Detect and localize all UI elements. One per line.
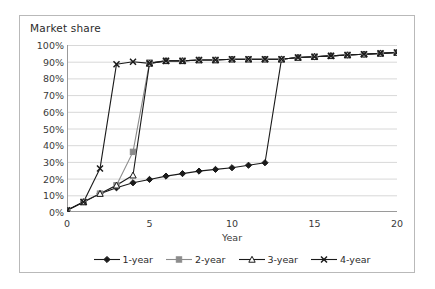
y-axis-tick-label: 0% bbox=[26, 207, 64, 218]
y-axis-tick-label: 30% bbox=[26, 156, 64, 167]
legend-item-3-year[interactable]: 3-year bbox=[239, 254, 299, 265]
y-axis-tick-label: 10% bbox=[26, 190, 64, 201]
data-point-diamond bbox=[163, 173, 169, 179]
x-axis-tick-label: 0 bbox=[64, 218, 70, 229]
data-point-diamond bbox=[179, 170, 185, 176]
data-point-diamond bbox=[103, 256, 109, 262]
data-point-diamond bbox=[262, 160, 268, 166]
x-axis-tick-labels: 05101520 bbox=[67, 216, 397, 232]
y-axis-tick-label: 20% bbox=[26, 173, 64, 184]
legend-label: 2-year bbox=[195, 255, 226, 265]
legend-marker-x-icon bbox=[311, 254, 337, 265]
y-axis-tick-label: 70% bbox=[26, 90, 64, 101]
legend-marker-square-icon bbox=[166, 254, 192, 265]
series-markers-3-year bbox=[67, 49, 397, 212]
x-axis-tick-label: 15 bbox=[308, 218, 320, 229]
x-axis-title: Year bbox=[67, 232, 397, 243]
data-point-diamond bbox=[245, 162, 251, 168]
legend-label: 4-year bbox=[340, 255, 371, 265]
legend-marker-diamond-icon bbox=[94, 254, 120, 265]
y-axis-tick-label: 100% bbox=[26, 40, 64, 51]
y-axis-tick-labels: 0%10%20%30%40%50%60%70%80%90%100% bbox=[23, 45, 64, 212]
y-axis-tick-label: 50% bbox=[26, 123, 64, 134]
legend-label: 3-year bbox=[268, 255, 299, 265]
legend-item-2-year[interactable]: 2-year bbox=[166, 254, 226, 265]
chart-frame: Market share 0%10%20%30%40%50%60%70%80%9… bbox=[19, 15, 415, 273]
data-point-diamond bbox=[229, 165, 235, 171]
data-point-diamond bbox=[146, 176, 152, 182]
plot-area bbox=[67, 45, 397, 212]
chart-title: Market share bbox=[30, 22, 101, 34]
y-axis-tick-label: 80% bbox=[26, 73, 64, 84]
legend-marker-triangle-icon bbox=[239, 254, 265, 265]
y-axis-tick-label: 40% bbox=[26, 140, 64, 151]
y-axis-tick-label: 60% bbox=[26, 106, 64, 117]
x-axis-tick-label: 10 bbox=[226, 218, 238, 229]
plot-svg bbox=[67, 45, 397, 212]
data-point-square bbox=[130, 149, 135, 154]
legend-label: 1-year bbox=[123, 255, 154, 265]
y-axis-tick-label: 90% bbox=[26, 56, 64, 67]
x-axis-tick-label: 20 bbox=[391, 218, 403, 229]
data-point-diamond bbox=[212, 166, 218, 172]
data-point-diamond bbox=[196, 168, 202, 174]
chart-legend: 1-year2-year3-year4-year bbox=[67, 254, 397, 265]
legend-item-4-year[interactable]: 4-year bbox=[311, 254, 371, 265]
data-point-diamond bbox=[130, 180, 136, 186]
data-point-triangle bbox=[130, 172, 136, 178]
x-axis-tick-label: 5 bbox=[146, 218, 152, 229]
data-point-square bbox=[176, 257, 181, 262]
legend-item-1-year[interactable]: 1-year bbox=[94, 254, 154, 265]
